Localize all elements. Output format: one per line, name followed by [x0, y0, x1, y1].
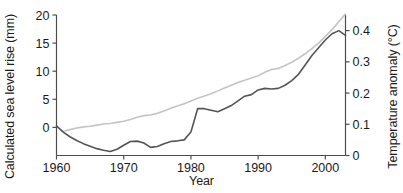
right-tick-label: 0.4	[353, 24, 370, 38]
left-tick-label: 10	[36, 65, 50, 79]
right-tick-label: 0.1	[353, 118, 370, 132]
right-tick-label: 0	[353, 149, 360, 163]
x-axis-title: Year	[0, 174, 403, 188]
series-line-sea-level	[63, 14, 345, 131]
left-tick-label: 0	[43, 121, 50, 135]
left-tick-label: 15	[36, 37, 50, 51]
y-axis-right-title: Temperature anomaly (°C)	[383, 0, 403, 193]
bottom-axis-ticks: 19601970198019902000	[43, 156, 340, 176]
left-tick-label: 5	[43, 93, 50, 107]
y-axis-left-title: Calculated sea level rise (mm)	[0, 0, 20, 193]
data-series-layer	[57, 14, 346, 152]
axis-lines	[57, 15, 346, 156]
bottom-tick-label: 1980	[177, 161, 205, 175]
left-axis-ticks: 05101520	[36, 9, 57, 135]
right-tick-label: 0.2	[353, 87, 370, 101]
right-tick-label: 0.3	[353, 55, 370, 69]
right-axis-ticks: 00.10.20.30.4	[346, 24, 370, 163]
series-line-temperature	[57, 31, 346, 152]
bottom-tick-label: 1970	[110, 161, 138, 175]
left-tick-label: 20	[36, 9, 50, 23]
chart-plot-area: 05101520 00.10.20.30.4 19601970198019902…	[0, 0, 403, 193]
bottom-tick-label: 1960	[43, 161, 71, 175]
bottom-tick-label: 1990	[244, 161, 272, 175]
bottom-tick-label: 2000	[311, 161, 339, 175]
chart-figure: 05101520 00.10.20.30.4 19601970198019902…	[0, 0, 403, 193]
